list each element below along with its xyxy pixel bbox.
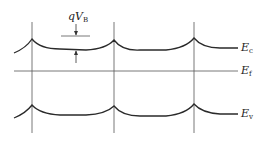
valence-band-label: Ev bbox=[241, 108, 253, 121]
conduction-band-curve bbox=[14, 38, 238, 53]
label-base: E bbox=[241, 64, 249, 77]
label-sub: f bbox=[249, 70, 252, 78]
valence-band-curve bbox=[14, 104, 238, 118]
label-sub: c bbox=[249, 47, 253, 55]
label-base: qV bbox=[68, 10, 83, 23]
label-sub: B bbox=[83, 16, 88, 24]
arrow-up-icon bbox=[74, 51, 78, 56]
arrow-down-icon bbox=[74, 31, 78, 36]
band-diagram bbox=[0, 0, 258, 142]
conduction-band-label: Ec bbox=[241, 42, 253, 55]
label-base: E bbox=[241, 107, 249, 120]
label-sub: v bbox=[249, 113, 253, 121]
fermi-level-label: Ef bbox=[241, 65, 252, 78]
barrier-height-label: qVB bbox=[68, 11, 88, 24]
label-base: E bbox=[241, 41, 249, 54]
